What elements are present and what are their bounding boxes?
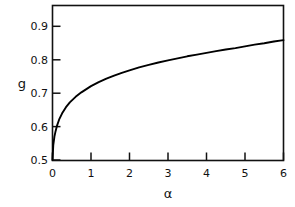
x-axis-title: α <box>164 186 173 201</box>
x-tick-label-2: 2 <box>126 167 133 180</box>
y-tick-label-0.7: 0.7 <box>31 87 49 100</box>
x-tick-labels: 0 1 2 3 4 5 6 <box>49 167 287 180</box>
y-tick-label-0.6: 0.6 <box>31 121 49 134</box>
y-tick-labels: 0.9 0.8 0.7 0.6 0.5 <box>31 20 49 167</box>
y-tick-label-0.8: 0.8 <box>31 54 49 67</box>
y-tick-label-0.9: 0.9 <box>31 20 49 33</box>
y-axis-title: g <box>18 76 26 91</box>
x-tick-label-0: 0 <box>49 167 56 180</box>
y-tick-label-0.5: 0.5 <box>31 154 49 167</box>
x-tick-label-4: 4 <box>203 167 210 180</box>
plot-frame <box>53 6 284 161</box>
chart-figure: 0.9 0.8 0.7 0.6 0.5 0 1 2 3 4 5 6 g α <box>0 0 295 207</box>
x-tick-label-5: 5 <box>242 167 249 180</box>
x-tick-label-1: 1 <box>88 167 95 180</box>
x-tick-label-6: 6 <box>280 167 287 180</box>
x-tick-label-3: 3 <box>165 167 172 180</box>
plot-area: 0.9 0.8 0.7 0.6 0.5 0 1 2 3 4 5 6 g α <box>0 0 295 207</box>
